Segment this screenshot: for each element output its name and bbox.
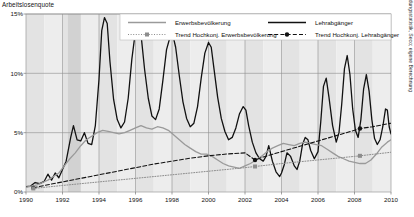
x-axis-tick-label: 2008 <box>348 196 362 203</box>
legend-marker <box>285 32 289 36</box>
legend-label: Lehrabgänger <box>315 19 353 26</box>
year-band <box>117 14 135 192</box>
series-marker <box>31 186 35 190</box>
series-marker <box>253 164 257 168</box>
series-marker <box>253 158 257 162</box>
year-band <box>318 14 336 192</box>
x-axis-tick-label: 2004 <box>275 196 289 203</box>
year-band <box>227 14 245 192</box>
year-band <box>190 14 208 192</box>
x-axis-tick-label: 2000 <box>202 196 216 203</box>
y-axis-ticks: 0%5%10%15% <box>11 10 26 195</box>
year-band <box>44 14 62 192</box>
legend-marker <box>145 33 149 37</box>
x-axis-tick-label: 1992 <box>56 196 70 203</box>
y-axis-tick-label: 15% <box>11 10 24 17</box>
y-axis-tick-label: 5% <box>14 129 23 136</box>
x-axis-tick-label: 2006 <box>311 196 325 203</box>
x-axis-ticks: 1990199219941996199820002002200420062008… <box>19 192 398 203</box>
year-band <box>300 14 318 192</box>
series-marker <box>358 126 362 130</box>
series-marker <box>358 154 362 158</box>
year-band <box>26 14 44 192</box>
x-axis-tick-label: 1998 <box>165 196 179 203</box>
year-band <box>209 14 227 192</box>
year-band <box>81 14 99 192</box>
x-axis-tick-label: 1994 <box>92 196 106 203</box>
y-axis-tick-label: 0% <box>14 188 23 195</box>
highlight-band <box>68 14 81 192</box>
legend-label: Erwerbsbevölkerung <box>175 19 231 26</box>
chart-legend: ErwerbsbevölkerungLehrabgängerTrend Hoch… <box>120 14 399 40</box>
legend-label: Trend Hochkonj. Lehrabgänger <box>315 31 399 38</box>
x-axis-tick-label: 1996 <box>129 196 143 203</box>
y-axis-tick-label: 10% <box>11 70 24 77</box>
source-note: Quelle: AMM, Bildungsstatistik, Seco; ei… <box>408 0 414 92</box>
legend-label: Trend Hochkonj. Erwerbsbevölkerung <box>175 31 277 38</box>
x-axis-tick-label: 2002 <box>238 196 252 203</box>
x-axis-tick-label: 2010 <box>384 196 398 203</box>
year-band <box>373 14 391 192</box>
year-band <box>136 14 154 192</box>
x-axis-tick-label: 1990 <box>19 196 33 203</box>
